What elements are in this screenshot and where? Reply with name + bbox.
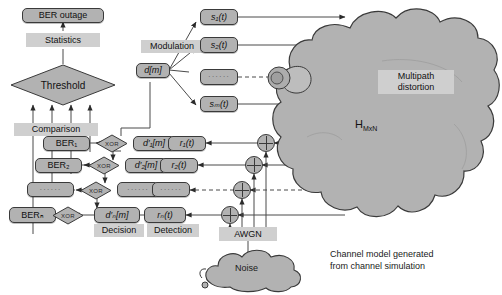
r-1-node[interactable]: r₁(t)	[168, 136, 206, 151]
s-1-label: s₁(t)	[211, 13, 227, 22]
dprime-1-label: d′₁[m]	[143, 139, 165, 148]
dprime-n-node[interactable]: d′ₙ[m]	[94, 207, 140, 223]
channel-matrix-label: HMxN	[355, 118, 377, 132]
s-1-node[interactable]: s₁(t)	[200, 9, 238, 25]
xor-dots-label: XOR	[80, 181, 112, 200]
ber-ellipsis-node: ······	[27, 182, 74, 197]
ber-1-label: BER₁	[56, 139, 78, 148]
ber-n-label: BERₙ	[21, 211, 44, 220]
multipath-distortion-label: Multipath distortion	[378, 70, 454, 94]
r-ellipsis-node: ······	[152, 182, 190, 197]
channel-matrix-sub: MxN	[363, 125, 377, 132]
ber-2-node[interactable]: BER₂	[35, 158, 82, 173]
dprime-ellipsis-label: ······	[127, 186, 149, 194]
channel-cloud-shape	[262, 6, 502, 251]
threshold-diamond[interactable]: Threshold	[10, 64, 116, 106]
noise-label: Noise	[235, 262, 258, 274]
ber-outage-node[interactable]: BER outage	[22, 8, 104, 23]
xor-dots-diamond[interactable]: XOR	[80, 181, 112, 200]
xor-2-diamond[interactable]: XOR	[88, 156, 120, 175]
s-ellipsis-label: ······	[208, 73, 230, 81]
sum-junction-n[interactable]	[221, 206, 239, 224]
detection-label: Detection	[147, 224, 199, 237]
decision-label: Decision	[94, 224, 144, 237]
xor-1-diamond[interactable]: XOR	[96, 134, 128, 153]
statistics-label: Statistics	[26, 33, 100, 47]
sum-junction-dots[interactable]	[233, 181, 251, 199]
channel-matrix-h: H	[355, 118, 363, 130]
r-2-label: r₂(t)	[172, 161, 187, 170]
xor-1-label: XOR	[96, 134, 128, 153]
xor-2-label: XOR	[88, 156, 120, 175]
r-n-label: rₙ(t)	[157, 211, 173, 220]
ber-n-node[interactable]: BERₙ	[9, 207, 56, 223]
xor-n-diamond[interactable]: XOR	[52, 206, 84, 225]
sum-junction-2[interactable]	[245, 156, 263, 174]
r-2-node[interactable]: r₂(t)	[160, 158, 198, 173]
s-ellipsis-node: ······	[200, 69, 238, 85]
s-m-node[interactable]: sₘ(t)	[200, 96, 238, 112]
dprime-n-label: d′ₙ[m]	[105, 211, 128, 220]
s-m-label: sₘ(t)	[210, 100, 229, 109]
xor-n-label: XOR	[52, 206, 84, 225]
s-2-label: s₂(t)	[211, 41, 227, 50]
d-m-node[interactable]: d[m]	[136, 63, 170, 78]
ber-2-label: BER₂	[48, 161, 70, 170]
dprime-2-label: d′₂[m]	[135, 161, 158, 170]
r-1-label: r₁(t)	[180, 139, 194, 148]
d-m-label: d[m]	[144, 66, 162, 75]
channel-model-caption: Channel model generated from channel sim…	[330, 248, 434, 272]
comparison-label: Comparison	[14, 123, 98, 136]
r-ellipsis-label: ······	[160, 186, 182, 194]
ber-1-node[interactable]: BER₁	[43, 136, 90, 151]
s-2-node[interactable]: s₂(t)	[200, 37, 238, 53]
diagram-canvas: BER outage Statistics Threshold Comparis…	[0, 0, 502, 295]
threshold-label: Threshold	[10, 64, 116, 106]
r-n-node[interactable]: rₙ(t)	[144, 207, 186, 223]
ber-ellipsis-label: ······	[40, 186, 62, 194]
modulation-label: Modulation	[141, 40, 203, 53]
